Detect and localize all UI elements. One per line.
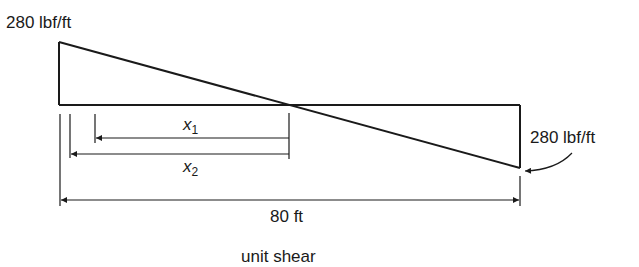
x1-label: x1 [182,115,199,137]
x2-label: x2 [182,157,199,179]
right-load-label: 280 lbf/ft [530,128,595,147]
right-load-leader-arrow [525,153,572,171]
span-label: 80 ft [270,207,303,226]
diagram-caption: unit shear [241,247,316,266]
unit-shear-diagram: 280 lbf/ft x1 x2 80 ft 280 lbf/ft unit s… [0,0,639,267]
left-load-label: 280 lbf/ft [6,13,71,32]
